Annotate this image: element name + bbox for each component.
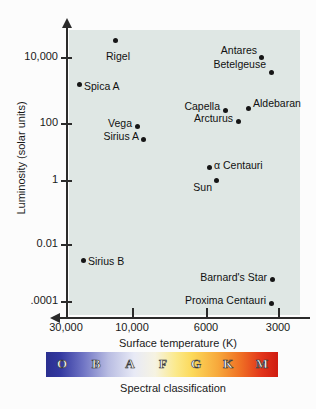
y-tick-mark [61, 301, 72, 303]
star-data-point [135, 124, 140, 129]
star-label: Sirius B [88, 255, 124, 267]
x-tick-mark [132, 308, 134, 318]
star-data-point [141, 137, 146, 142]
spectral-class-letter-a: A [125, 356, 134, 372]
spectral-class-letter-k: K [223, 356, 233, 372]
y-tick-label: 10,000 [24, 50, 58, 62]
star-data-point [113, 38, 118, 43]
star-data-point [269, 301, 274, 306]
y-tick-mark [61, 57, 72, 59]
hr-diagram-figure: 10,00010010.01.0001 Luminosity (solar un… [0, 0, 316, 409]
spectral-class-letter-b: B [92, 356, 101, 372]
star-data-point [269, 70, 274, 75]
star-label: α Centauri [214, 159, 263, 171]
x-tick-label: 30,000 [49, 321, 83, 333]
y-tick-label: 1 [52, 173, 58, 185]
spectral-class-letter-m: M [256, 356, 268, 372]
spectral-class-letter-f: F [159, 356, 167, 372]
x-tick-label: 10,000 [115, 321, 149, 333]
y-tick-label: .0001 [30, 294, 58, 306]
star-label: Aldebaran [253, 97, 301, 109]
star-label: Betelgeuse [213, 58, 266, 70]
spectral-class-letter-g: G [191, 356, 201, 372]
star-label: Antares [221, 44, 257, 56]
spectral-class-letter-o: O [57, 356, 67, 372]
star-data-point [214, 178, 219, 183]
star-label: Arcturus [194, 112, 233, 124]
y-tick-mark [61, 244, 72, 246]
x-axis-title-text: Surface temperature (K) [79, 337, 237, 349]
x-tick-mark [66, 308, 68, 318]
x-axis-line [56, 317, 310, 319]
y-axis-line [66, 26, 68, 318]
x-tick-label: 3000 [266, 321, 290, 333]
spectral-caption-text: Spectral classification [90, 382, 226, 394]
star-label: Rigel [106, 50, 130, 62]
star-label: Capella [184, 100, 220, 112]
x-axis-title: Surface temperature (K) [0, 337, 316, 349]
x-tick-mark [278, 308, 280, 318]
star-data-point [207, 165, 212, 170]
star-data-point [236, 119, 241, 124]
star-label: Barnard's Star [200, 271, 267, 283]
y-axis-title: Luminosity (solar units) [15, 63, 27, 253]
star-data-point [270, 277, 275, 282]
star-data-point [77, 82, 82, 87]
x-tick-label: 6000 [194, 321, 218, 333]
star-label: Sun [193, 181, 212, 193]
star-label: Vega [108, 117, 132, 129]
star-label: Spica A [84, 80, 120, 92]
y-tick-mark [61, 180, 72, 182]
y-tick-label: 0.01 [37, 237, 58, 249]
star-label: Sirius A [103, 130, 139, 142]
y-axis-arrow-icon [62, 18, 72, 28]
star-label: Proxima Centauri [185, 294, 266, 306]
y-tick-mark [61, 123, 72, 125]
star-data-point [246, 106, 251, 111]
x-tick-mark [206, 308, 208, 318]
star-data-point [81, 258, 86, 263]
spectral-caption: Spectral classification [0, 382, 316, 394]
y-tick-label: 100 [40, 116, 58, 128]
